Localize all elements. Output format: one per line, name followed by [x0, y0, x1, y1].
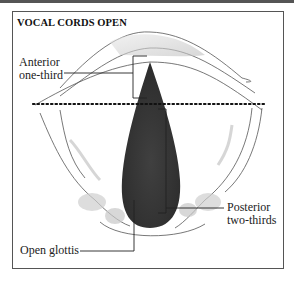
- epiglottis-shading: [110, 34, 205, 56]
- left-cartilage-lower: [105, 208, 125, 224]
- label-posterior-line2: two-thirds: [227, 214, 276, 227]
- label-open-glottis: Open glottis: [20, 244, 79, 257]
- label-posterior-two-thirds: Posterior two-thirds: [227, 201, 276, 227]
- right-fold-shadow: [218, 125, 232, 165]
- label-anterior-one-third: Anterior one-third: [19, 56, 63, 82]
- label-anterior-line2: one-third: [19, 69, 63, 82]
- left-cartilage: [78, 193, 106, 211]
- anterior-bracket: [64, 56, 147, 98]
- figure-title: VOCAL CORDS OPEN: [17, 17, 127, 28]
- left-fold-shadow: [70, 140, 100, 180]
- open-glottis-shape: [122, 62, 180, 228]
- right-cartilage-lower: [179, 203, 197, 217]
